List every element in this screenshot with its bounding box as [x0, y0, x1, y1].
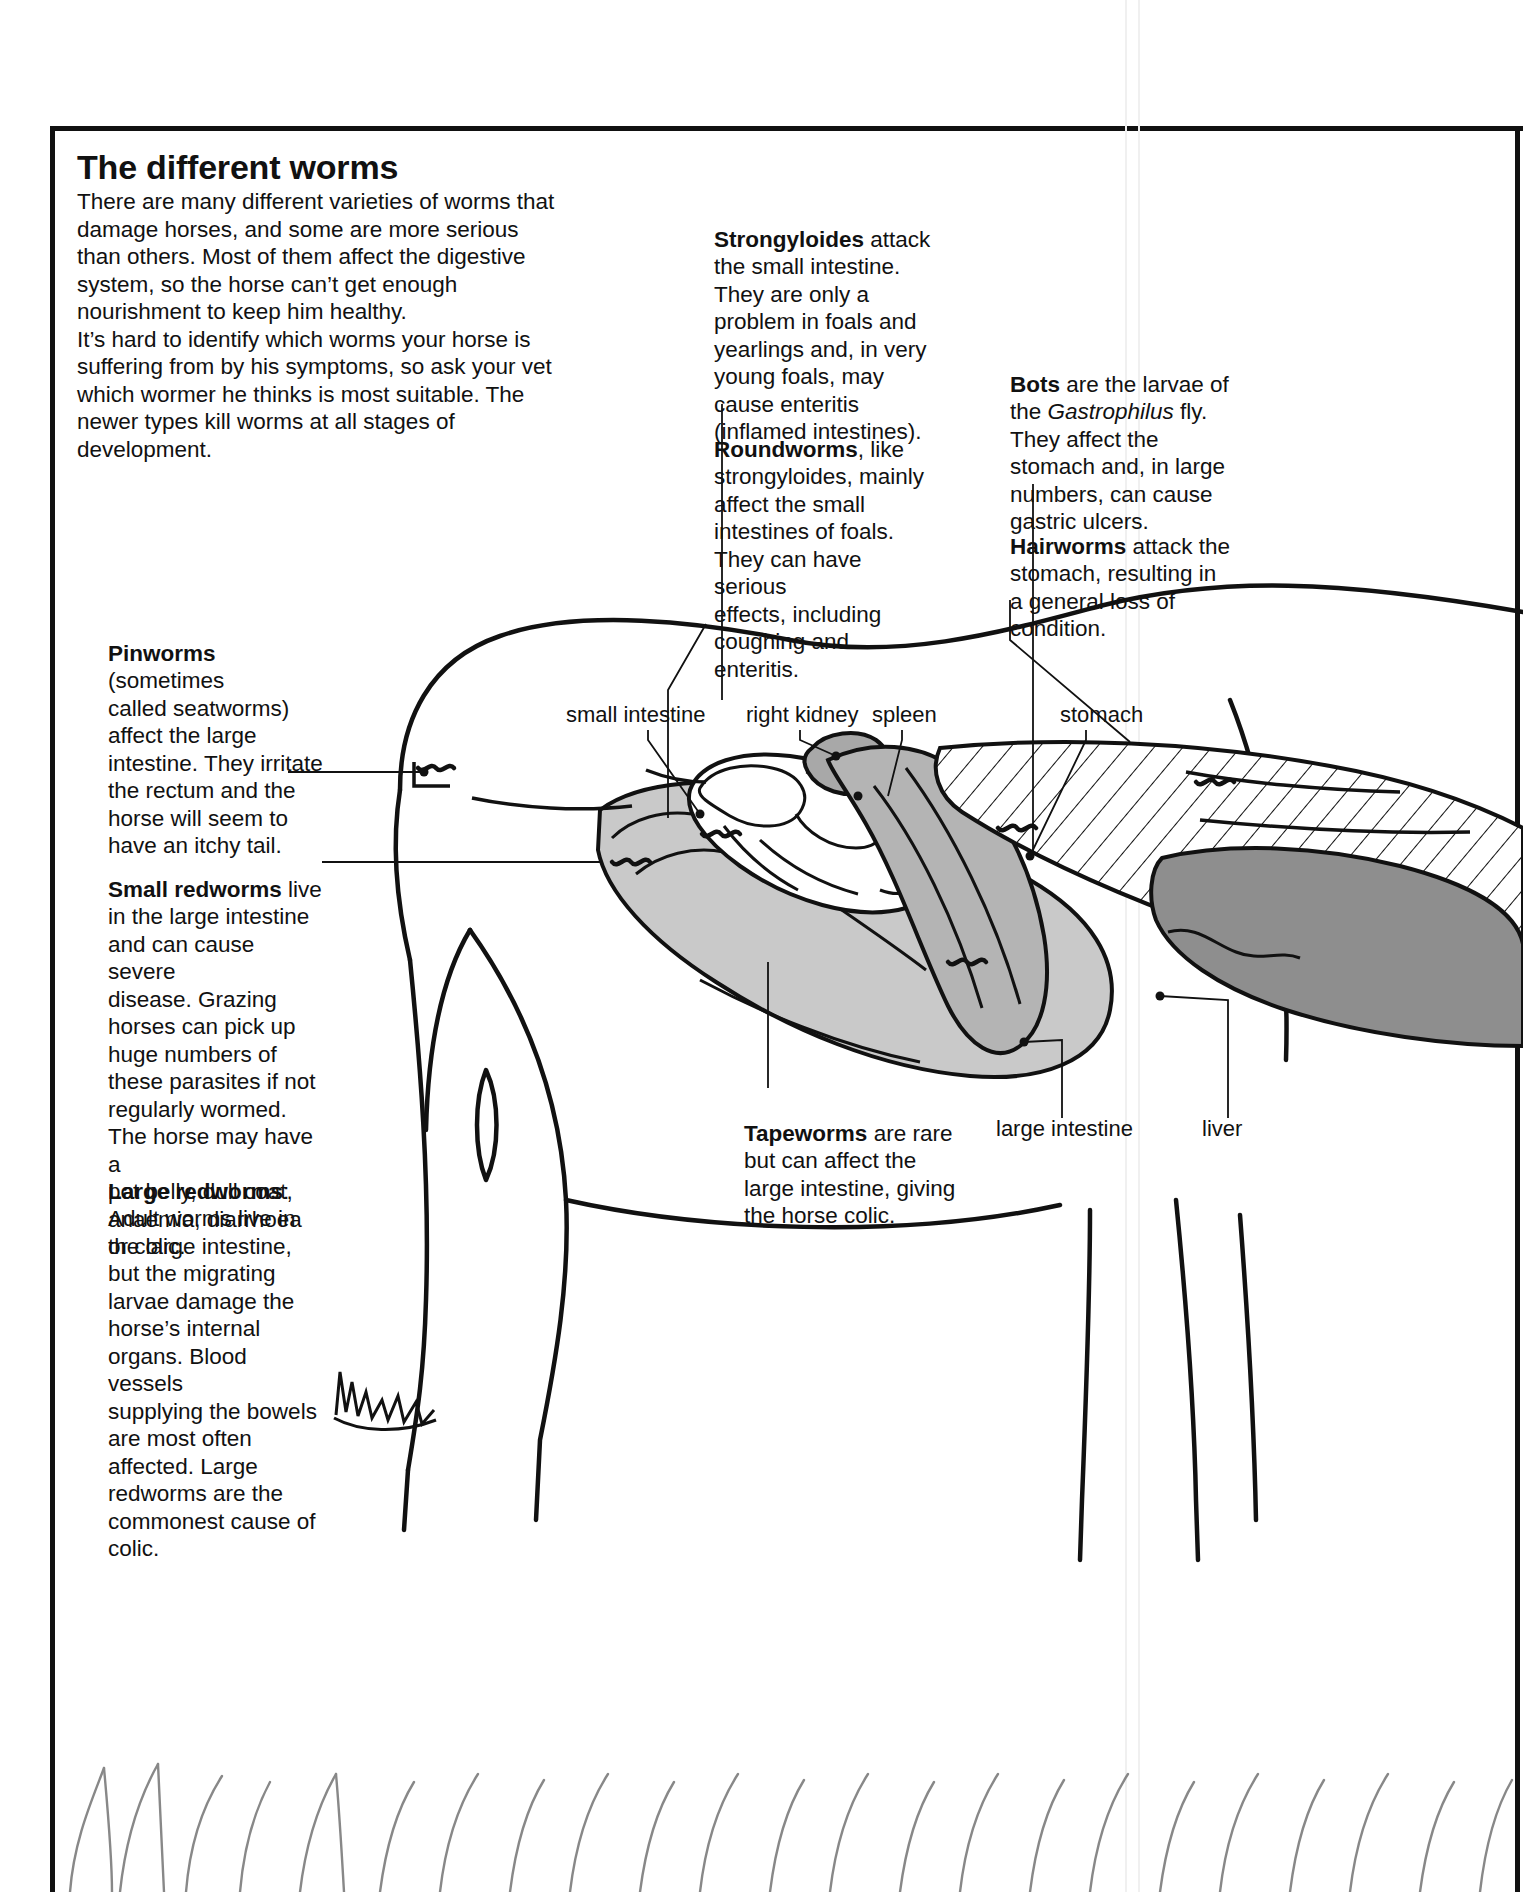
worm-entry-roundworms: Roundworms, like strongyloides, mainly a… [714, 408, 939, 683]
organ-label-large-intestine: large intestine [996, 1117, 1133, 1141]
bots-heading: Bots [1010, 372, 1060, 397]
organ-label-liver: liver [1202, 1117, 1242, 1141]
organ-label-small-intestine: small intestine [566, 703, 705, 727]
worm-entry-large-redworms: Large redworms: Adult worms live in the … [108, 1150, 323, 1563]
leader-dot [854, 792, 863, 801]
leader-dot [832, 752, 841, 761]
worm-entry-pinworms: Pinworms (sometimes called seatworms) af… [108, 612, 338, 860]
leader-dot [1020, 1038, 1029, 1047]
strongyloides-heading: Strongyloides [714, 227, 864, 252]
worm-entry-tapeworms: Tapeworms are rare but can affect the la… [744, 1092, 959, 1230]
hairworms-heading: Hairworms [1010, 534, 1126, 559]
organ-label-right-kidney: right kidney [746, 703, 859, 727]
large-redworms-heading: Large redworms [108, 1179, 283, 1204]
worm-entry-hairworms: Hairworms attack the stomach, resulting … [1010, 505, 1255, 643]
organ-label-stomach: stomach [1060, 703, 1143, 727]
large-redworms-text: : Adult worms live in the large intestin… [108, 1179, 317, 1562]
intro-paragraph: There are many different varieties of wo… [77, 188, 557, 463]
leader-dot [420, 768, 429, 777]
roundworms-heading: Roundworms [714, 437, 858, 462]
grass-strokes [70, 1764, 1512, 1892]
organ-label-spleen: spleen [872, 703, 937, 727]
article-header: The different worms [77, 148, 547, 187]
roundworms-text: , like strongyloides, mainly affect the … [714, 437, 924, 682]
tapeworms-heading: Tapeworms [744, 1121, 867, 1146]
leader-dot [1026, 852, 1035, 861]
leader-dot [1156, 992, 1165, 1001]
page-title: The different worms [77, 148, 547, 187]
bots-species-name: Gastrophilus [1048, 399, 1174, 424]
small-redworms-heading: Small redworms [108, 877, 282, 902]
leader-dot [696, 810, 705, 819]
pinworms-heading: Pinworms [108, 641, 216, 666]
pinworms-text: (sometimes called seatworms) affect the … [108, 668, 323, 858]
